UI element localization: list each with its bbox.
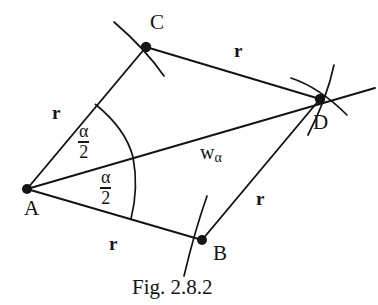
angle-arc-lower bbox=[131, 157, 135, 219]
bisector-label-base: w bbox=[200, 141, 214, 163]
point-label-c: C bbox=[150, 12, 164, 33]
vertex-d bbox=[315, 94, 325, 104]
length-label-bd: r bbox=[256, 189, 264, 208]
vertex-b bbox=[197, 235, 207, 245]
point-label-a: A bbox=[24, 198, 39, 219]
length-label-cd: r bbox=[234, 41, 242, 60]
vertex-c bbox=[141, 42, 151, 52]
segment-ac bbox=[27, 47, 146, 189]
point-label-d: D bbox=[313, 112, 328, 133]
angle-upper-denominator: 2 bbox=[78, 143, 89, 162]
vertex-a bbox=[22, 184, 32, 194]
angle-lower-denominator: 2 bbox=[100, 189, 111, 208]
point-label-b: B bbox=[213, 243, 227, 264]
length-label-ab: r bbox=[109, 234, 117, 253]
angle-upper-numerator: α bbox=[78, 122, 89, 140]
segment-cd bbox=[146, 47, 320, 99]
length-label-ac: r bbox=[52, 103, 60, 122]
angle-arc-upper bbox=[95, 104, 133, 157]
geometry-drawing bbox=[0, 0, 378, 305]
angle-label-upper-alpha-over-2: α 2 bbox=[78, 122, 89, 162]
figure-caption: Fig. 2.8.2 bbox=[132, 275, 213, 300]
angle-lower-numerator: α bbox=[100, 168, 111, 186]
angle-label-lower-alpha-over-2: α 2 bbox=[100, 168, 111, 208]
figure-container: A B C D r r r r wα α 2 α 2 Fig. 2.8.2 bbox=[0, 0, 378, 305]
bisector-label-subscript: α bbox=[214, 150, 221, 165]
bisector-label-w-alpha: wα bbox=[200, 142, 222, 165]
